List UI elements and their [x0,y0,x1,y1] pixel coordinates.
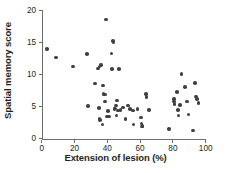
y-tick-mark [39,42,42,43]
data-point [117,67,121,71]
data-point [187,113,191,117]
data-point [104,18,108,22]
data-point [145,95,149,99]
x-axis-line [42,139,207,140]
plot-area: 05101520020406080100 [0,0,231,173]
x-tick-mark [172,140,173,143]
data-point [99,63,103,67]
data-point [85,52,89,56]
data-point [115,114,119,118]
y-tick-label: 0 [20,134,36,143]
data-point [93,82,97,86]
data-point [110,52,114,56]
x-tick-mark [205,140,206,143]
data-point [106,109,110,113]
scatter-plot-figure: 05101520020406080100 Spatial memory scor… [0,0,231,173]
data-point [176,108,180,112]
y-tick-label: 20 [20,6,36,15]
y-tick-mark [39,74,42,75]
data-point [103,100,107,104]
data-point [107,115,111,119]
y-tick-mark [39,10,42,11]
data-point [45,47,49,51]
data-point [191,129,195,133]
data-point [101,123,105,127]
data-point [86,104,90,108]
data-point [121,106,125,110]
data-point [136,107,140,111]
data-point [115,99,119,103]
y-tick-label: 10 [20,70,36,79]
x-axis-title: Extension of lesion (%) [0,152,231,163]
data-point [141,124,145,128]
data-point [139,116,143,120]
data-point [183,85,187,89]
data-point [101,84,105,88]
data-point [193,81,197,85]
x-tick-mark [107,140,108,143]
data-point [97,106,101,110]
data-point [173,102,177,106]
x-tick-mark [41,140,42,143]
data-point [177,114,181,118]
data-point [98,118,102,122]
data-point [54,56,58,60]
data-point [185,100,189,104]
data-point [178,103,182,107]
data-point [131,109,135,113]
data-point [197,101,201,105]
data-point [175,90,179,94]
data-point [132,123,136,127]
x-tick-mark [74,140,75,143]
data-point [114,104,118,108]
data-point [110,67,114,71]
y-axis-line [42,10,43,139]
y-tick-mark [39,106,42,107]
y-tick-label: 15 [20,38,36,47]
y-tick-label: 5 [20,102,36,111]
y-axis-title: Spatial memory score [0,0,14,140]
x-tick-mark [140,140,141,143]
data-point [112,41,116,45]
data-point [167,127,171,131]
data-point [180,72,184,76]
data-point [147,108,151,112]
y-axis-title-text: Spatial memory score [2,22,13,119]
data-point [124,117,128,121]
data-point [71,65,75,69]
data-point [103,93,107,97]
